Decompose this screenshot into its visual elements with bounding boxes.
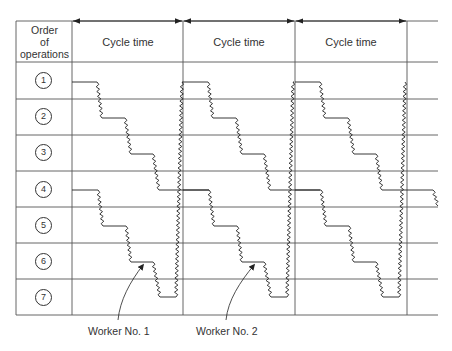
order-of-operations-header: Order of operations — [17, 24, 72, 60]
header-line-of: of — [17, 36, 72, 48]
cycle-time-label-2: Cycle time — [184, 36, 294, 48]
cycle-time-label-3: Cycle time — [296, 36, 406, 48]
grid-lines — [16, 21, 438, 315]
worker-2-label: Worker No. 2 — [196, 325, 258, 337]
worker-trace-lower — [72, 82, 184, 297]
operation-4-circle: 4 — [35, 181, 52, 198]
cycle-time-label-1: Cycle time — [73, 36, 183, 48]
header-line-order: Order — [17, 24, 72, 36]
worker-pointer-arrows — [118, 265, 254, 320]
header-line-operations: operations — [17, 48, 72, 60]
worker-2-pointer-arrow — [226, 265, 254, 320]
worker-1-pointer-arrow — [118, 265, 143, 320]
worker-trace-upper — [295, 82, 438, 206]
worker-trace-lower — [183, 82, 295, 297]
worker-1-label: Worker No. 1 — [88, 325, 150, 337]
operation-7-circle: 7 — [35, 289, 52, 306]
worker-traces — [72, 82, 438, 297]
operation-5-circle: 5 — [35, 217, 52, 234]
worker-trace-upper — [183, 82, 320, 190]
worker-trace-lower — [295, 82, 407, 297]
operation-3-circle: 3 — [35, 144, 52, 161]
operation-1-circle: 1 — [35, 72, 52, 89]
operation-6-circle: 6 — [35, 253, 52, 270]
worker-trace-upper — [72, 82, 209, 190]
operation-2-circle: 2 — [35, 108, 52, 125]
